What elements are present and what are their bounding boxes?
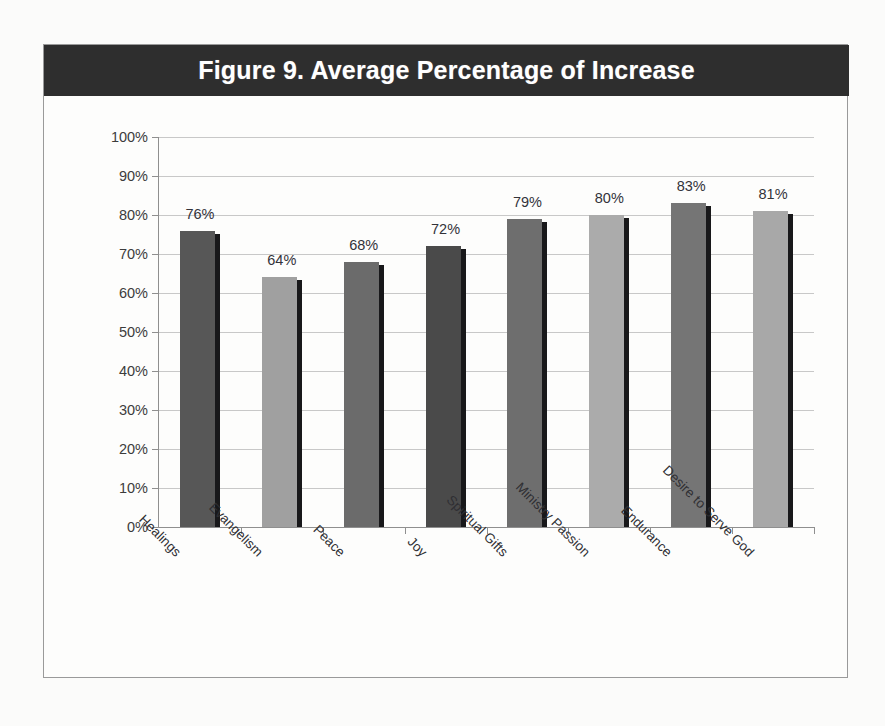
bar-shadow (542, 222, 547, 527)
plot-area: 0%10%20%30%40%50%60%70%80%90%100% 76%64%… (159, 137, 814, 527)
bar-value-label: 81% (759, 186, 788, 202)
gridline (159, 215, 814, 216)
bar-shadow (624, 218, 629, 527)
y-axis-tick-label: 30% (119, 402, 148, 418)
bar-slot: 68% (344, 137, 384, 527)
bar-shadow (215, 234, 220, 527)
bar[interactable]: 79% (507, 219, 547, 527)
bar[interactable]: 64% (262, 277, 302, 527)
bar-chart: 0%10%20%30%40%50%60%70%80%90%100% 76%64%… (44, 96, 849, 679)
bar[interactable]: 80% (589, 215, 629, 527)
y-axis-tick (152, 371, 159, 372)
y-axis-tick (152, 137, 159, 138)
y-axis-tick (152, 293, 159, 294)
bar-value-label: 79% (513, 194, 542, 210)
bar-value-label: 83% (677, 178, 706, 194)
y-axis-tick (152, 449, 159, 450)
bar-shadow (788, 214, 793, 527)
y-axis-tick-label: 90% (119, 168, 148, 184)
bar[interactable]: 68% (344, 262, 384, 527)
bar-shadow (297, 280, 302, 527)
y-axis-tick-label: 40% (119, 363, 148, 379)
bar[interactable]: 81% (753, 211, 793, 527)
y-axis-tick (152, 254, 159, 255)
bar-slot: 80% (589, 137, 629, 527)
gridline (159, 488, 814, 489)
x-axis-tick (405, 527, 406, 534)
y-axis-tick (152, 488, 159, 489)
figure-title: Figure 9. Average Percentage of Increase (198, 56, 695, 85)
bar-body (262, 277, 297, 527)
y-axis-tick-label: 70% (119, 246, 148, 262)
gridline (159, 137, 814, 138)
x-axis-tick (814, 527, 815, 534)
bar-slot: 64% (262, 137, 302, 527)
gridline (159, 254, 814, 255)
y-axis-tick (152, 215, 159, 216)
y-axis-tick-label: 10% (119, 480, 148, 496)
gridline (159, 332, 814, 333)
y-axis-tick (152, 176, 159, 177)
y-axis-tick (152, 410, 159, 411)
gridline (159, 371, 814, 372)
bar-shadow (461, 249, 466, 527)
y-axis-tick-label: 20% (119, 441, 148, 457)
bar-body (426, 246, 461, 527)
gridline (159, 449, 814, 450)
y-axis-tick-label: 50% (119, 324, 148, 340)
y-axis-tick-label: 60% (119, 285, 148, 301)
bar-slot: 79% (507, 137, 547, 527)
bar-value-label: 76% (185, 206, 214, 222)
y-axis-tick-label: 80% (119, 207, 148, 223)
bar[interactable]: 72% (426, 246, 466, 527)
bar-value-label: 68% (349, 237, 378, 253)
bar-slot: 72% (426, 137, 466, 527)
figure-title-banner: Figure 9. Average Percentage of Increase (44, 45, 849, 96)
x-axis-category-label: Healings (136, 512, 184, 560)
bar-shadow (706, 206, 711, 527)
x-axis-category-label: Joy (404, 534, 429, 559)
bar-body (753, 211, 788, 527)
bar[interactable]: 76% (180, 231, 220, 527)
bar-body (589, 215, 624, 527)
gridline (159, 293, 814, 294)
figure-frame: Figure 9. Average Percentage of Increase… (43, 44, 848, 678)
bar-value-label: 64% (267, 252, 296, 268)
bar-shadow (379, 265, 384, 527)
gridline (159, 176, 814, 177)
x-axis-category-label: Endurance (618, 503, 675, 560)
bar-body (180, 231, 215, 527)
bar-value-label: 72% (431, 221, 460, 237)
x-axis-category-label: Evangelism (206, 500, 266, 560)
y-axis-tick (152, 332, 159, 333)
bar-body (344, 262, 379, 527)
bar-value-label: 80% (595, 190, 624, 206)
y-axis-tick-label: 100% (111, 129, 148, 145)
gridline (159, 410, 814, 411)
bar-slot: 81% (753, 137, 793, 527)
bar-slot: 76% (180, 137, 220, 527)
